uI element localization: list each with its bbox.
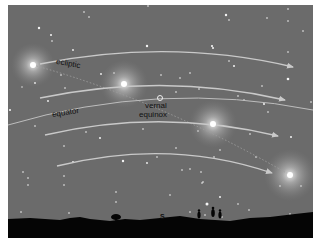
vernal-label: vernal [145, 102, 167, 110]
sky-svg [8, 5, 313, 238]
sky-diagram: ecliptic equator vernal equinox S [8, 5, 313, 238]
south-direction-label: S [160, 213, 165, 221]
equinox-label: equinox [139, 111, 167, 119]
